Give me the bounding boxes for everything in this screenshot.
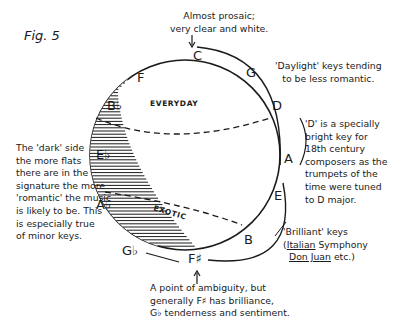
brilliant-line: Don Juan etc.) bbox=[283, 251, 368, 264]
dark-side-line: there are in the bbox=[16, 167, 111, 180]
d-note-line: to D major. bbox=[305, 194, 387, 207]
arrow-down-to-c-icon bbox=[189, 35, 195, 47]
brilliant-line: (Italian Symphony bbox=[283, 239, 368, 252]
ambiguity-line: A point of ambiguity, but bbox=[150, 282, 290, 295]
d-note-line: trumpets of the bbox=[305, 168, 387, 181]
d-note-line: 'D' is a specially bbox=[305, 118, 387, 131]
ambiguity-annotation: A point of ambiguity, but generally F♯ h… bbox=[150, 282, 290, 320]
figure-label: Fig. 5 bbox=[24, 28, 60, 43]
key-f: F bbox=[137, 70, 144, 85]
gflat-fsharp-line bbox=[146, 253, 179, 262]
etc: etc.) bbox=[331, 251, 355, 262]
c-annotation: Almost prosaic; very clear and white. bbox=[170, 10, 268, 35]
c-note-line: Almost prosaic; bbox=[170, 10, 268, 23]
d-note-line: 18th century bbox=[305, 143, 387, 156]
daylight-line: to be less romantic. bbox=[275, 73, 382, 86]
ambiguity-line: generally F♯ has brilliance, bbox=[150, 295, 290, 308]
don-juan-title: Don Juan bbox=[289, 251, 331, 262]
everyday-region-label: EVERYDAY bbox=[150, 99, 198, 108]
key-d: D bbox=[272, 98, 282, 113]
key-e-flat: E♭ bbox=[96, 147, 110, 162]
key-c: C bbox=[193, 48, 202, 63]
symphony-word: Symphony bbox=[315, 239, 367, 250]
key-b-flat: B♭ bbox=[107, 98, 122, 113]
d-key-annotation: 'D' is a specially bright key for 18th c… bbox=[305, 118, 387, 206]
brilliant-line: 'Brilliant' keys bbox=[283, 226, 368, 239]
key-g: G bbox=[246, 65, 256, 80]
italian-symphony-title: Italian bbox=[287, 239, 316, 250]
dark-side-line: of minor keys. bbox=[16, 230, 111, 243]
daylight-line: 'Daylight' keys tending bbox=[275, 60, 382, 73]
d-note-line: composers as the bbox=[305, 156, 387, 169]
d-note-line: bright key for bbox=[305, 131, 387, 144]
c-note-line: very clear and white. bbox=[170, 23, 268, 36]
daylight-annotation: 'Daylight' keys tending to be less roman… bbox=[275, 60, 382, 85]
d-note-line: time were tuned bbox=[305, 181, 387, 194]
key-b: B bbox=[244, 232, 253, 247]
dark-side-line: is especially true bbox=[16, 218, 111, 231]
key-g-flat: G♭ bbox=[122, 243, 138, 258]
dark-side-line: signature the more bbox=[16, 180, 111, 193]
everyday-boundary bbox=[96, 118, 270, 134]
daylight-arc bbox=[197, 47, 280, 165]
ambiguity-line: G♭ tenderness and sentiment. bbox=[150, 307, 290, 320]
key-a-flat: A♭ bbox=[96, 197, 111, 212]
brilliant-annotation: 'Brilliant' keys (Italian Symphony Don J… bbox=[283, 226, 368, 264]
key-a: A bbox=[284, 151, 293, 166]
key-f-sharp: F♯ bbox=[188, 251, 202, 266]
key-e: E bbox=[274, 188, 282, 203]
